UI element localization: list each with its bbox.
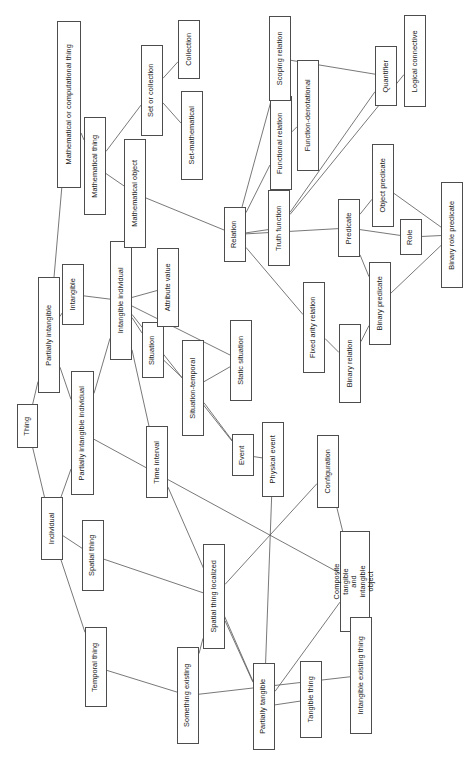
- node-spatial_thing_localized[interactable]: Spatial thing localized: [203, 544, 225, 649]
- node-label: Attribute value: [164, 264, 173, 312]
- edge-partially_intangible-to-partially_intangible_individual: [60, 367, 71, 399]
- node-label: Functional relation: [277, 112, 286, 173]
- node-label: Physical event: [269, 435, 278, 483]
- node-thing[interactable]: Thing: [17, 404, 38, 448]
- node-functional_relation[interactable]: Functional relation: [270, 96, 292, 190]
- node-label: Mathematical thing: [91, 135, 100, 198]
- edge-configuration-to-composite_tangible_and_intangible_object: [337, 508, 343, 531]
- edge-intangible_individual-to-attribute_value: [132, 291, 157, 298]
- edge-situation_temporal-to-event: [204, 403, 232, 441]
- edge-fixed_arity_relation-to-binary_relation: [325, 339, 339, 353]
- node-spatial_thing[interactable]: Spatial thing: [82, 520, 104, 591]
- node-label: Partially intangible individual: [78, 386, 87, 480]
- edge-partially_intangible_individual-to-intangible_individual: [94, 338, 110, 393]
- node-label: Binary predicate: [376, 276, 385, 330]
- node-physical_event[interactable]: Physical event: [262, 422, 284, 497]
- node-configuration[interactable]: Configuration: [317, 435, 339, 508]
- node-label: Intangible individual: [117, 268, 126, 334]
- edge-relation-to-truth_function: [246, 230, 268, 233]
- node-set_mathematical[interactable]: Set-mathematical: [181, 91, 203, 180]
- node-temporal_thing[interactable]: Temporal thing: [85, 627, 107, 707]
- node-role[interactable]: Role: [400, 219, 422, 255]
- edge-individual-to-partially_intangible_individual: [61, 469, 71, 497]
- edge-relation-to-predicate: [246, 229, 338, 234]
- edge-event-to-physical_event: [254, 457, 262, 458]
- node-label: Set or collection: [148, 64, 157, 117]
- node-label: Situation-temporal: [189, 358, 198, 419]
- node-scoping_relation[interactable]: Scoping relation: [269, 16, 291, 101]
- edge-spatial_thing-to-spatial_thing_localized: [104, 559, 203, 593]
- node-attribute_value[interactable]: Attribute value: [157, 248, 179, 327]
- node-label: Spatial thing localized: [210, 560, 219, 633]
- node-fixed_arity_relation[interactable]: Fixed arity relation: [303, 282, 325, 373]
- node-label: Tangible thing: [307, 676, 316, 722]
- node-label: Static situation: [237, 336, 246, 385]
- node-binary_role_predicate[interactable]: Binary role predicate: [441, 182, 463, 288]
- node-label: Relation: [231, 221, 240, 249]
- node-quantifier[interactable]: Quantifier: [375, 46, 397, 106]
- edge-role-to-binary_role_predicate: [422, 236, 441, 237]
- node-label: Time interval: [153, 441, 162, 484]
- edge-binary_relation-to-binary_predicate: [361, 326, 369, 342]
- node-math_object[interactable]: Mathematical object: [124, 139, 146, 248]
- node-label: Intangible: [69, 278, 78, 311]
- node-label: Collection: [185, 33, 194, 66]
- node-collection[interactable]: Collection: [178, 20, 200, 79]
- node-label: Function-denotational: [304, 79, 313, 151]
- edge-set_or_collection-to-collection: [163, 62, 178, 79]
- node-label: Set-mathematical: [188, 106, 197, 164]
- node-situation_temporal[interactable]: Situation-temporal: [182, 340, 204, 436]
- node-situation[interactable]: Situation: [142, 322, 164, 378]
- node-function_denotational[interactable]: Function-denotational: [297, 60, 319, 171]
- node-label: Thing: [23, 417, 32, 436]
- edge-predicate-to-role: [360, 230, 400, 236]
- node-tangible_thing[interactable]: Tangible thing: [300, 661, 322, 738]
- node-something_existing[interactable]: Something existing: [177, 647, 199, 744]
- edge-relation-to-functional_relation: [246, 165, 270, 213]
- node-label: Intangible existing thing: [357, 636, 366, 715]
- node-set_or_collection[interactable]: Set or collection: [141, 45, 163, 136]
- node-label: Fixed arity relation: [310, 297, 319, 358]
- node-label: Scoping relation: [276, 32, 285, 86]
- edge-thing-to-individual: [33, 448, 45, 497]
- node-truth_function[interactable]: Truth function: [268, 190, 290, 266]
- node-label: Mathematical object: [131, 160, 140, 227]
- node-logical_connective[interactable]: Logical connective: [404, 15, 426, 107]
- node-partially_tangible[interactable]: Partially tangible: [253, 663, 275, 750]
- edge-situation_temporal-to-static_situation: [204, 367, 230, 382]
- node-label: Situation: [149, 335, 158, 364]
- node-event[interactable]: Event: [232, 434, 254, 476]
- node-intangible_existing_thing[interactable]: Intangible existing thing: [350, 617, 372, 734]
- node-label: Composite tangible and intangible object: [334, 564, 377, 600]
- node-label: Binary role predicate: [448, 201, 457, 270]
- edge-intangible-to-intangible_individual: [84, 296, 110, 299]
- edge-set_or_collection-to-set_mathematical: [163, 103, 181, 123]
- node-binary_relation[interactable]: Binary relation: [339, 324, 361, 403]
- node-static_situation[interactable]: Static situation: [230, 320, 252, 401]
- node-label: Quantifier: [382, 60, 391, 93]
- node-time_interval[interactable]: Time interval: [146, 426, 168, 498]
- node-object_predicate[interactable]: Object predicate: [372, 144, 394, 227]
- edge-predicate-to-object_predicate: [360, 199, 372, 214]
- edge-physical_event-to-partially_tangible: [266, 497, 272, 663]
- node-binary_predicate[interactable]: Binary predicate: [369, 262, 391, 345]
- node-relation[interactable]: Relation: [224, 207, 246, 262]
- node-label: Object predicate: [379, 158, 388, 213]
- node-label: Partially tangible: [260, 679, 269, 734]
- node-label: Truth function: [275, 205, 284, 251]
- node-intangible[interactable]: Intangible: [62, 264, 84, 325]
- edge-spatial_thing_localized-to-partially_tangible: [225, 621, 253, 683]
- node-predicate[interactable]: Predicate: [338, 199, 360, 257]
- node-partially_intangible_individual[interactable]: Partially intangible individual: [71, 371, 94, 495]
- node-label: Individual: [48, 513, 57, 545]
- edge-partially_intangible-to-math_or_comp_thing: [54, 188, 62, 277]
- node-math_thing[interactable]: Mathematical thing: [84, 117, 106, 215]
- node-label: Something existing: [184, 664, 193, 727]
- node-label: Temporal thing: [92, 642, 101, 691]
- diagram-canvas: ThingPartially intangibleIndividualMathe…: [0, 0, 476, 763]
- node-intangible_individual[interactable]: Intangible individual: [110, 241, 132, 360]
- node-individual[interactable]: Individual: [41, 497, 63, 560]
- node-label: Role: [407, 229, 416, 244]
- node-math_or_comp_thing[interactable]: Mathematical or computational thing: [57, 21, 81, 188]
- node-partially_intangible[interactable]: Partially intangible: [38, 277, 60, 393]
